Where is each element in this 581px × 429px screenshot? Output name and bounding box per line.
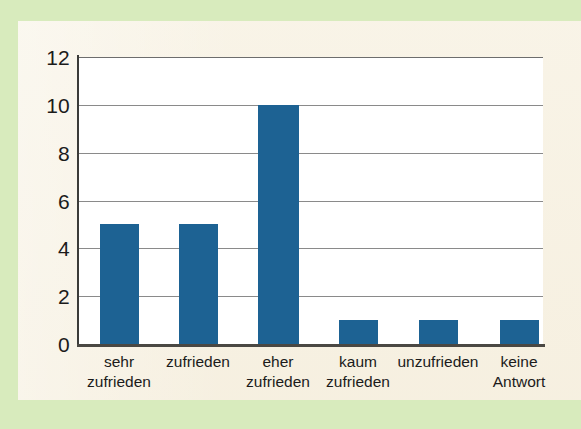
x-category-label-line2: zufrieden — [303, 372, 413, 392]
y-tick-label-12: 12 — [2, 47, 70, 68]
y-tick-label-6: 6 — [2, 190, 70, 211]
y-tick-label-0: 0 — [2, 334, 70, 355]
x-category-label-line1: keine — [500, 353, 537, 370]
y-axis-line — [77, 55, 79, 346]
x-category-label-line1: sehr — [104, 353, 134, 370]
y-tick-label-2: 2 — [2, 286, 70, 307]
figure-frame: 024681012 sehrzufriedenzufriedeneherzufr… — [0, 0, 581, 429]
bar — [500, 320, 539, 344]
bar — [179, 224, 218, 344]
gridline-6 — [78, 201, 543, 202]
y-tick-label-4: 4 — [2, 238, 70, 259]
gridline-12 — [78, 57, 543, 58]
bar — [419, 320, 458, 344]
bar-chart: 024681012 sehrzufriedenzufriedeneherzufr… — [0, 0, 581, 429]
bar — [258, 105, 299, 344]
y-tick-label-10: 10 — [2, 94, 70, 115]
gridline-4 — [78, 248, 543, 249]
gridline-10 — [78, 105, 543, 106]
x-category-label-line1: eher — [262, 353, 293, 370]
bar — [100, 224, 139, 344]
x-axis-category-labels: sehrzufriedenzufriedeneherzufriedenkaumz… — [78, 352, 543, 414]
y-axis-tick-labels: 024681012 — [0, 0, 70, 429]
x-category-label-line1: zufrieden — [166, 353, 230, 370]
bar — [339, 320, 378, 344]
gridline-8 — [78, 153, 543, 154]
x-axis-line — [77, 344, 545, 347]
plot-area — [78, 57, 543, 344]
x-category-label-line2: zufrieden — [64, 372, 174, 392]
x-category-label: keineAntwort — [464, 352, 574, 392]
x-category-label-line1: kaum — [339, 353, 377, 370]
gridline-2 — [78, 296, 543, 297]
x-category-label-line2: Antwort — [464, 372, 574, 392]
y-tick-label-8: 8 — [2, 142, 70, 163]
